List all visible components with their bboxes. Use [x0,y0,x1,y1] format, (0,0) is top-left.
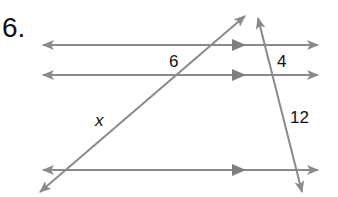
parallel-line-bottom [43,164,318,176]
parallel-marker-icon [232,39,246,51]
segment-label-x: x [95,112,104,129]
segment-label-6: 6 [169,53,178,70]
parallel-lines-diagram [0,0,338,197]
segment-label-12: 12 [290,109,309,126]
transversal-left [40,16,245,192]
parallel-marker-icon [232,164,246,176]
parallel-line-top [43,39,318,51]
segment-label-4: 4 [277,53,286,70]
parallel-marker-icon [232,69,246,81]
